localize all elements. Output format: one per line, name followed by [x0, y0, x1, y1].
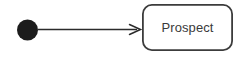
- state-node-prospect-label: Prospect: [142, 4, 233, 51]
- transition-initial-to-prospect[interactable]: [38, 25, 141, 35]
- state-diagram-canvas: Prospect: [0, 0, 241, 57]
- initial-state-node[interactable]: [17, 20, 38, 41]
